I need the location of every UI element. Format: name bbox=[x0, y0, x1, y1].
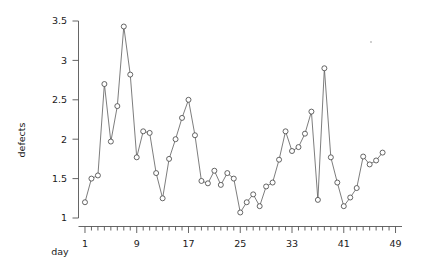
data-point bbox=[302, 131, 307, 136]
data-point bbox=[173, 137, 178, 142]
x-tick-label: 49 bbox=[389, 238, 401, 249]
data-point bbox=[225, 171, 230, 176]
data-point bbox=[315, 197, 320, 202]
x-tick-label: 17 bbox=[182, 238, 194, 249]
x-tick-label: 33 bbox=[286, 238, 298, 249]
y-tick-label: 1.5 bbox=[52, 173, 67, 184]
x-axis-title: day bbox=[51, 246, 69, 257]
data-point bbox=[290, 149, 295, 154]
data-point bbox=[95, 173, 100, 178]
data-point bbox=[341, 204, 346, 209]
x-tick-label: 41 bbox=[338, 238, 350, 249]
defects-line-chart: 11.522.533.5 191725334149 defects day bbox=[0, 0, 430, 277]
data-point bbox=[296, 145, 301, 150]
x-tick-label: 1 bbox=[82, 238, 88, 249]
data-point bbox=[348, 195, 353, 200]
data-point bbox=[374, 158, 379, 163]
x-axis-group: 191725334149 bbox=[79, 227, 403, 250]
data-point bbox=[134, 155, 139, 160]
data-point bbox=[180, 115, 185, 120]
data-point bbox=[205, 181, 210, 186]
y-tick-label: 2.5 bbox=[52, 94, 67, 105]
y-tick-label: 2 bbox=[61, 134, 67, 145]
data-point bbox=[128, 72, 133, 77]
data-point bbox=[192, 133, 197, 138]
data-point bbox=[380, 150, 385, 155]
x-tick-label: 25 bbox=[234, 238, 246, 249]
data-point bbox=[328, 155, 333, 160]
data-point bbox=[367, 162, 372, 167]
chart-container: 11.522.533.5 191725334149 defects day bbox=[0, 0, 430, 277]
data-point bbox=[82, 200, 87, 205]
data-point bbox=[199, 178, 204, 183]
data-point bbox=[231, 176, 236, 181]
data-point bbox=[322, 66, 327, 71]
series-markers-defects bbox=[82, 24, 385, 215]
data-point bbox=[89, 176, 94, 181]
data-point bbox=[218, 182, 223, 187]
data-point bbox=[277, 157, 282, 162]
data-point bbox=[108, 139, 113, 144]
y-axis-title: defects bbox=[16, 122, 27, 157]
data-point bbox=[121, 24, 126, 29]
stray-speck bbox=[370, 41, 372, 43]
y-axis-ticks bbox=[73, 21, 79, 218]
y-tick-label: 1 bbox=[61, 212, 67, 223]
data-point bbox=[335, 180, 340, 185]
y-axis-group: 11.522.533.5 bbox=[52, 15, 79, 223]
data-point bbox=[361, 154, 366, 159]
data-point bbox=[167, 156, 172, 161]
data-point bbox=[264, 184, 269, 189]
y-tick-label: 3 bbox=[61, 55, 67, 66]
x-axis-tick-labels: 191725334149 bbox=[82, 238, 402, 249]
data-point bbox=[102, 82, 107, 87]
data-point bbox=[154, 171, 159, 176]
y-axis-tick-labels: 11.522.533.5 bbox=[52, 15, 67, 223]
x-tick-label: 9 bbox=[134, 238, 140, 249]
data-point bbox=[115, 104, 120, 109]
data-point bbox=[354, 186, 359, 191]
data-point bbox=[212, 168, 217, 173]
data-point bbox=[283, 129, 288, 134]
x-axis-ticks bbox=[85, 227, 396, 234]
data-point bbox=[251, 192, 256, 197]
data-point bbox=[244, 200, 249, 205]
data-point bbox=[147, 130, 152, 135]
data-point bbox=[160, 196, 165, 201]
y-tick-label: 3.5 bbox=[52, 15, 67, 26]
data-point bbox=[141, 129, 146, 134]
data-point bbox=[309, 109, 314, 114]
data-point bbox=[186, 97, 191, 102]
data-point bbox=[238, 210, 243, 215]
data-point bbox=[257, 204, 262, 209]
data-point bbox=[270, 180, 275, 185]
